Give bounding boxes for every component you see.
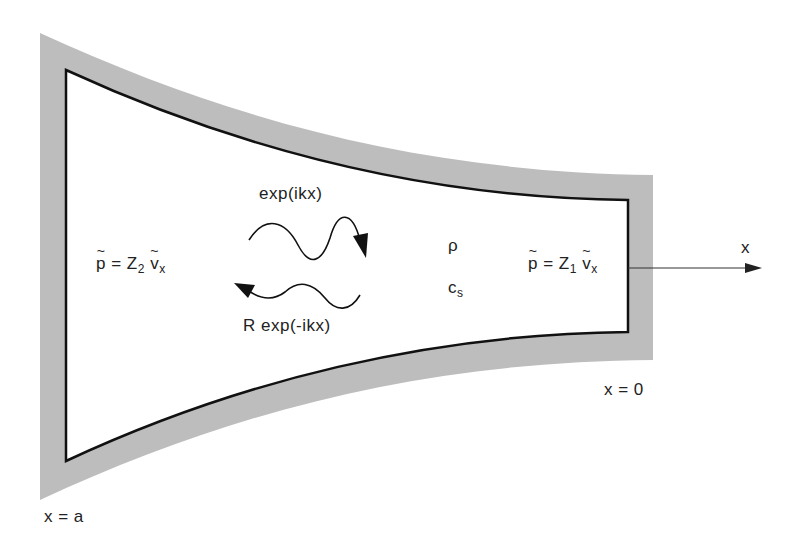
density-label: ρ (448, 236, 458, 256)
reflected-wave-label: R exp(-ikx) (243, 316, 331, 336)
x-zero-label: x = 0 (604, 380, 644, 400)
axis-label: x (741, 238, 750, 258)
sound-speed-label: cs (448, 278, 464, 300)
duct-diagram: p = Z2 vx p = Z1 vx exp(ikx) R exp(-ikx)… (0, 0, 798, 542)
left-boundary-condition: p = Z2 vx (96, 254, 166, 276)
incident-wave-label: exp(ikx) (259, 184, 323, 204)
right-boundary-condition: p = Z1 vx (528, 254, 598, 276)
x-axis-arrow-icon (745, 263, 762, 273)
x-a-label: x = a (44, 507, 84, 527)
